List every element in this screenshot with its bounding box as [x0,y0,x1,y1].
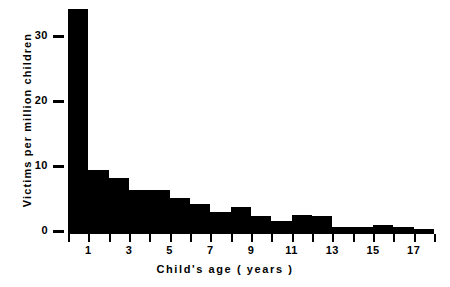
x-axis-tick-mark [271,234,273,242]
x-axis-title: Child's age ( years ) [0,263,450,275]
x-axis-tick-mark [434,234,436,242]
x-axis-tick-mark [393,234,395,242]
bar [68,9,88,232]
x-axis-tick-label: 3 [117,244,141,256]
x-axis-tick-mark [210,234,212,242]
bar [210,212,230,232]
y-axis-tick-label: 10 [22,159,48,171]
bar [231,207,251,232]
x-axis-tick-mark [109,234,111,242]
x-axis-tick-mark [312,234,314,242]
x-axis-tick-mark [190,234,192,242]
x-axis-tick-mark [231,234,233,242]
bar [251,216,271,232]
x-axis-tick-mark [414,234,416,242]
x-axis-tick-mark [129,234,131,242]
bar [129,190,149,232]
x-axis-tick-mark [373,234,375,242]
plot-area [68,4,434,232]
x-axis-tick-mark [170,234,172,242]
x-axis-tick-mark [251,234,253,242]
x-axis-tick-label: 5 [158,244,182,256]
y-axis-tick-label: 30 [22,29,48,41]
y-axis-tick-label: 20 [22,94,48,106]
x-axis-tick-mark [68,234,70,242]
x-axis-tick-mark [332,234,334,242]
x-axis-tick-label: 9 [239,244,263,256]
x-axis-tick-label: 13 [320,244,344,256]
x-axis-tick-mark [353,234,355,242]
x-axis-tick-mark [149,234,151,242]
y-axis-tick-mark [53,165,64,168]
y-axis-tick-mark [53,35,64,38]
y-axis-tick-mark [53,100,64,103]
x-axis-tick-label: 15 [361,244,385,256]
y-axis-tick-label: 0 [22,224,48,236]
x-axis-tick-mark [292,234,294,242]
bar [149,190,169,232]
bar [190,204,210,232]
y-axis-tick-mark [53,230,64,233]
bar [88,170,108,232]
x-axis-tick-label: 7 [198,244,222,256]
chart-figure: Victims per million children 0102030 135… [0,0,450,287]
bar [170,198,190,232]
x-axis-tick-label: 1 [76,244,100,256]
x-axis-tick-label: 17 [402,244,426,256]
bar [109,178,129,232]
bar [312,216,332,232]
bar [292,215,312,232]
x-axis-tick-label: 11 [280,244,304,256]
x-axis-tick-mark [88,234,90,242]
